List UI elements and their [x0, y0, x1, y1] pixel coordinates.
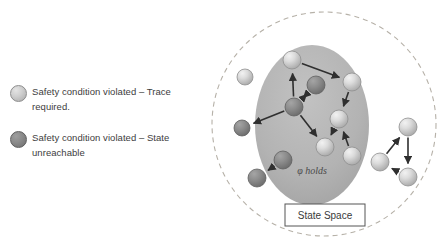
- legend-swatch-dark-circle-icon: [10, 131, 27, 148]
- diagram-page: Safety condition violated – Trace requir…: [0, 0, 448, 251]
- legend-item-trace-required: Safety condition violated – Trace requir…: [10, 84, 196, 114]
- legend-item-label: Safety condition violated – State unreac…: [32, 130, 196, 160]
- phi-holds-region: [255, 45, 369, 205]
- transition-edge: [293, 73, 294, 96]
- legend-item-label: Safety condition violated – Trace requir…: [32, 84, 196, 114]
- phi-holds-label: φ holds: [297, 165, 327, 176]
- state-node-dark: [274, 151, 292, 169]
- state-node-dark: [234, 120, 250, 136]
- state-node-light: [343, 73, 361, 91]
- state-space-caption-label: State Space: [298, 210, 353, 221]
- state-node-light: [283, 51, 301, 69]
- state-node-light: [399, 168, 417, 186]
- state-node-dark: [285, 98, 303, 116]
- state-space-caption: State Space: [285, 204, 365, 226]
- legend-swatch-light-circle-icon: [10, 85, 27, 102]
- state-node-light: [237, 69, 253, 85]
- state-node-light: [371, 153, 389, 171]
- legend-item-state-unreachable: Safety condition violated – State unreac…: [10, 130, 196, 160]
- state-node-light: [316, 138, 334, 156]
- transition-edge: [392, 168, 399, 172]
- state-node-dark: [307, 76, 325, 94]
- transition-edge: [387, 138, 400, 154]
- state-node-light: [343, 147, 361, 165]
- legend: Safety condition violated – Trace requir…: [10, 84, 196, 176]
- state-space-diagram: φ holds State Space: [200, 0, 448, 251]
- state-node-dark: [248, 169, 266, 187]
- state-node-light: [330, 110, 348, 128]
- state-node-light: [399, 118, 417, 136]
